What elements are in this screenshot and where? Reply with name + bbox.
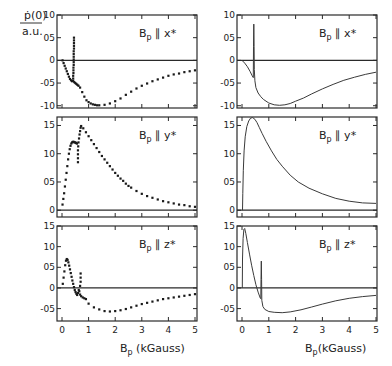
x-tick-label: 2	[293, 325, 299, 335]
data-point	[93, 143, 95, 145]
data-point	[125, 308, 127, 310]
data-point	[173, 73, 175, 75]
y-tick-label: -05	[220, 78, 235, 88]
data-point	[67, 158, 69, 160]
data-point	[122, 180, 124, 182]
y-tick-label: 05	[44, 262, 55, 272]
data-point	[117, 175, 119, 177]
data-point	[78, 137, 80, 139]
data-point	[85, 298, 87, 300]
y-tick-label: 05	[224, 262, 235, 272]
panel-label: Bp ∥ y*	[139, 129, 177, 144]
data-point	[183, 71, 185, 73]
panel-label-rest: ∥ z*	[332, 238, 356, 251]
panel-label-main: B	[139, 238, 147, 251]
data-point	[71, 279, 73, 281]
data-point	[119, 309, 121, 311]
y-tick-label: 0	[49, 55, 55, 65]
data-point	[81, 91, 83, 93]
y-tick-label: 0	[229, 205, 235, 215]
panel-label-rest: ∥ z*	[152, 238, 176, 251]
data-point	[157, 78, 159, 80]
data-point	[98, 104, 100, 106]
data-point	[141, 85, 143, 87]
x-tick-label: 2	[112, 325, 118, 335]
y-tick-label: 0	[229, 55, 235, 65]
data-point	[69, 268, 71, 270]
data-point	[194, 293, 196, 295]
data-point	[73, 37, 75, 39]
data-point	[73, 64, 75, 66]
data-point	[73, 58, 75, 60]
data-point	[173, 296, 175, 298]
data-point	[66, 70, 68, 72]
y-tick-label: 10	[224, 10, 236, 20]
y-tick-label: 10	[44, 242, 56, 252]
x-tick-label: 3	[320, 325, 326, 335]
data-point	[68, 76, 70, 78]
y-tick-label: 10	[44, 149, 56, 159]
data-point	[68, 265, 70, 267]
data-point	[114, 100, 116, 102]
data-point	[77, 157, 79, 159]
data-point	[76, 294, 78, 296]
x-tick-label: 5	[192, 325, 198, 335]
panels: 10050-05-10Bp ∥ x*1510050Bp ∥ y*1510050-…	[40, 10, 379, 335]
data-point	[66, 165, 68, 167]
data-point	[92, 103, 94, 105]
plot-frame	[237, 226, 377, 321]
y-tick-label: -10	[220, 101, 235, 111]
panel-label-main: B	[319, 27, 327, 40]
panel-x-left: 10050-05-10Bp ∥ x*	[40, 10, 197, 111]
panel-label-rest: ∥ y*	[332, 129, 357, 142]
y-tick-label: 15	[44, 120, 55, 130]
data-point	[141, 193, 143, 195]
data-point	[64, 185, 66, 187]
data-point	[72, 67, 74, 69]
data-point	[94, 104, 96, 106]
data-point	[62, 62, 64, 64]
data-point	[162, 200, 164, 202]
data-point	[65, 179, 67, 181]
data-point	[125, 94, 127, 96]
data-point	[178, 203, 180, 205]
panel-label-rest: ∥ x*	[152, 27, 177, 40]
data-point	[67, 261, 69, 263]
data-point	[162, 298, 164, 300]
data-point	[151, 80, 153, 82]
data-point	[69, 148, 71, 150]
panel-label-main: B	[139, 129, 147, 142]
data-point	[135, 190, 137, 192]
data-point	[78, 290, 80, 292]
data-point	[73, 39, 75, 41]
panel-y-right: 1510050Bp ∥ y*	[224, 117, 377, 217]
data-point	[73, 42, 75, 44]
data-point	[61, 59, 63, 61]
data-point	[183, 204, 185, 206]
data-point	[77, 145, 79, 147]
data-point	[79, 285, 81, 287]
y-tick-label: 15	[224, 120, 235, 130]
data-point	[189, 294, 191, 296]
data-point	[72, 69, 74, 71]
y-tick-label: 15	[224, 221, 235, 231]
data-point	[65, 67, 67, 69]
data-curve	[242, 229, 376, 313]
data-point	[127, 185, 129, 187]
y-tick-label: 10	[44, 10, 56, 20]
y-tick-label: 15	[44, 221, 55, 231]
data-point	[63, 270, 65, 272]
data-point	[157, 198, 159, 200]
data-point	[141, 303, 143, 305]
data-point	[135, 87, 137, 89]
data-point	[106, 162, 108, 164]
panel-label: Bp ∥ x*	[139, 27, 177, 42]
data-point	[68, 153, 70, 155]
data-point	[80, 272, 82, 274]
y-tick-label: 0	[229, 283, 235, 293]
data-point	[125, 183, 127, 185]
data-point	[79, 130, 81, 132]
data-point	[109, 102, 111, 104]
data-point	[80, 125, 82, 127]
data-point	[98, 308, 100, 310]
